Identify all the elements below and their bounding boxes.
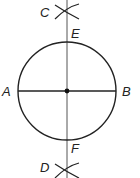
label-b: B [122, 84, 131, 99]
center-point [65, 89, 70, 94]
label-c: C [40, 5, 50, 20]
construction-diagram: C E A B F D [0, 0, 140, 178]
label-e: E [71, 26, 80, 41]
label-f: F [71, 141, 80, 156]
label-a: A [1, 84, 11, 99]
label-d: D [40, 160, 49, 175]
